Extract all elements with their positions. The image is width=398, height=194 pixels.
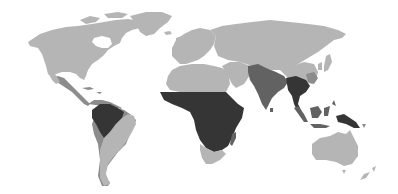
region-north-africa: [166, 64, 230, 92]
world-map: [0, 0, 398, 194]
